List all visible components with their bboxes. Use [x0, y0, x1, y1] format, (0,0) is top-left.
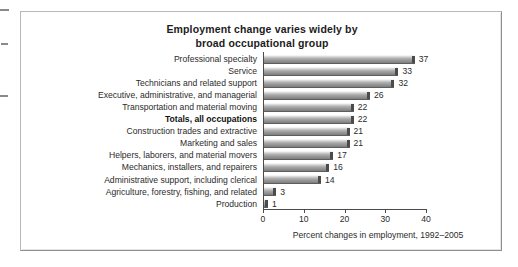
bar-end-cap	[273, 188, 276, 195]
bar-value-label: 26	[374, 89, 384, 101]
bar	[264, 55, 415, 64]
value-axis-tick	[385, 209, 386, 213]
bar-value-label: 22	[358, 113, 368, 125]
margin-mark-3	[0, 95, 8, 97]
value-axis-tick-label: 10	[299, 214, 309, 225]
value-axis-tick	[304, 209, 305, 213]
bar-row: Professional specialty37	[21, 53, 503, 65]
bar-end-cap	[265, 200, 268, 207]
bar-value-label: 14	[325, 174, 335, 186]
value-axis-tick-label: 20	[340, 214, 350, 225]
bar-value-label: 21	[354, 125, 364, 137]
bar	[264, 91, 370, 100]
bar-end-cap	[326, 164, 329, 171]
category-label: Technicians and related support	[31, 77, 261, 89]
category-label: Production	[31, 198, 261, 210]
bar-end-cap	[351, 104, 354, 111]
value-axis-tick	[345, 209, 346, 213]
bar-row: Production1	[21, 198, 503, 210]
bar	[264, 151, 333, 160]
category-label: Construction trades and extractive	[31, 125, 261, 137]
value-axis-tick-label: 40	[421, 214, 431, 225]
bar-value-label: 17	[337, 149, 347, 161]
bar	[264, 163, 329, 172]
category-label: Administrative support, including cleric…	[31, 174, 261, 186]
bar	[264, 187, 276, 196]
bar-row: Administrative support, including cleric…	[21, 174, 503, 186]
bar-end-cap	[347, 140, 350, 147]
bar-end-cap	[351, 116, 354, 123]
bar-value-label: 37	[419, 53, 429, 65]
bar-value-label: 3	[280, 186, 285, 198]
figure-frame: Employment change varies widely by broad…	[20, 11, 502, 251]
bar-row: Marketing and sales21	[21, 137, 503, 149]
bar	[264, 199, 268, 208]
margin-mark-2	[1, 43, 8, 45]
value-axis-tick	[263, 209, 264, 213]
bar-row: Executive, administrative, and manageria…	[21, 89, 503, 101]
plot-area: Professional specialty37Service33Technic…	[21, 12, 503, 252]
bar-value-label: 1	[272, 198, 277, 210]
bar-row: Transportation and material moving22	[21, 101, 503, 113]
category-label: Marketing and sales	[31, 137, 261, 149]
bar-value-label: 22	[358, 101, 368, 113]
bar	[264, 67, 398, 76]
bar-row: Agriculture, forestry, fishing, and rela…	[21, 186, 503, 198]
category-label: Service	[31, 65, 261, 77]
value-axis-tick	[426, 209, 427, 213]
bar	[264, 127, 350, 136]
category-label: Mechanics, installers, and repairers	[31, 161, 261, 173]
bar-row: Construction trades and extractive21	[21, 125, 503, 137]
bar-row: Helpers, laborers, and material movers17	[21, 149, 503, 161]
bar	[264, 115, 354, 124]
bar-end-cap	[330, 152, 333, 159]
bar-row: Totals, all occupations22	[21, 113, 503, 125]
bar	[264, 175, 321, 184]
bar-end-cap	[318, 176, 321, 183]
bar-row: Mechanics, installers, and repairers16	[21, 161, 503, 173]
category-label: Executive, administrative, and manageria…	[31, 89, 261, 101]
bar-value-label: 21	[354, 137, 364, 149]
value-axis-title: Percent changes in employment, 1992–2005	[263, 230, 493, 241]
bar	[264, 103, 354, 112]
bar-end-cap	[395, 68, 398, 75]
value-axis-tick-label: 0	[261, 214, 266, 225]
category-label: Transportation and material moving	[31, 101, 261, 113]
bar-end-cap	[347, 128, 350, 135]
bar-row: Service33	[21, 65, 503, 77]
bar-value-label: 16	[333, 161, 343, 173]
bar-end-cap	[391, 80, 394, 87]
category-label: Totals, all occupations	[31, 113, 261, 125]
bar	[264, 79, 394, 88]
category-label: Helpers, laborers, and material movers	[31, 149, 261, 161]
bar-row: Technicians and related support32	[21, 77, 503, 89]
value-axis-tick-label: 30	[380, 214, 390, 225]
category-label: Professional specialty	[31, 53, 261, 65]
bar-value-label: 32	[398, 77, 408, 89]
bar-end-cap	[412, 56, 415, 63]
bar	[264, 139, 350, 148]
bar-value-label: 33	[402, 65, 412, 77]
margin-mark-1	[0, 9, 9, 11]
category-label: Agriculture, forestry, fishing, and rela…	[31, 186, 261, 198]
bar-end-cap	[367, 92, 370, 99]
